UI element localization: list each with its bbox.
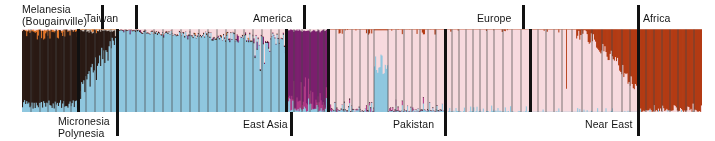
- label-east-asia: East Asia: [243, 119, 288, 131]
- label-pakistan: Pakistan: [393, 119, 434, 131]
- tick-micronesia-polynesia: [116, 112, 119, 136]
- tick-europe: [522, 5, 525, 29]
- label-europe: Europe: [477, 13, 511, 25]
- admixture-bars-canvas: [22, 29, 702, 112]
- region-divider-1: [116, 29, 119, 112]
- label-america: America: [253, 13, 292, 25]
- region-divider-6: [637, 29, 640, 112]
- region-divider-0: [77, 29, 80, 112]
- admixture-plot-area: [22, 29, 702, 112]
- label-melanesia-line2: (Bougainville): [22, 16, 87, 28]
- label-near-east: Near East: [585, 119, 633, 131]
- tick-near-east: [637, 112, 640, 136]
- region-divider-5: [529, 29, 532, 112]
- admixture-figure: Melanesia (Bougainville) Taiwan America …: [0, 0, 715, 141]
- label-melanesia-line1: Melanesia: [22, 4, 87, 16]
- region-divider-3: [327, 29, 330, 112]
- tick-pakistan: [444, 112, 447, 136]
- label-melanesia-bougainville: Melanesia (Bougainville): [22, 4, 87, 27]
- region-divider-4: [444, 29, 447, 112]
- label-micronesia-line2: Polynesia: [58, 128, 110, 140]
- label-africa: Africa: [643, 13, 670, 25]
- label-micronesia-polynesia: Micronesia Polynesia: [58, 116, 110, 139]
- region-divider-2: [285, 29, 288, 112]
- tick-africa: [637, 5, 640, 29]
- tick-east-asia: [290, 112, 293, 136]
- tick-america: [303, 5, 306, 29]
- label-taiwan: Taiwan: [85, 13, 118, 25]
- label-micronesia-line1: Micronesia: [58, 116, 110, 128]
- tick-taiwan: [135, 5, 138, 29]
